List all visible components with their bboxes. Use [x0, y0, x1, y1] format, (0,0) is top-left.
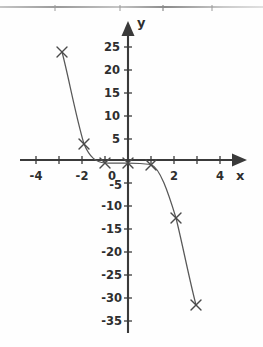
data-point-marker — [191, 300, 201, 310]
y-tick-label: -35 — [101, 314, 122, 328]
y-tick-label: -15 — [101, 222, 122, 236]
y-axis-arrow — [122, 21, 135, 36]
x-axis-label: x — [236, 168, 245, 183]
y-tick-label: 5 — [112, 132, 120, 146]
y-tick-label: 25 — [104, 40, 120, 54]
y-axis — [122, 21, 135, 333]
graph-figure: y x 0 -4 -2 2 4 25 20 15 10 5 -5 -10 -15… — [0, 0, 263, 347]
y-tick-label: -20 — [101, 245, 122, 259]
x-tick-label: 4 — [216, 169, 224, 183]
y-tick-label: -10 — [101, 199, 122, 213]
y-tick-label: 20 — [104, 63, 120, 77]
y-tick-label: 10 — [104, 109, 120, 123]
y-tick-label: -25 — [101, 268, 122, 282]
x-tick-label: 2 — [170, 169, 178, 183]
x-tick-label: -2 — [76, 169, 89, 183]
data-point-marker — [79, 139, 89, 149]
coordinate-plot: y x 0 -4 -2 2 4 25 20 15 10 5 -5 -10 -15… — [0, 0, 263, 347]
x-axis-arrow — [232, 154, 247, 167]
data-point-marker — [57, 47, 67, 57]
data-point-marker — [171, 213, 181, 223]
x-axis — [20, 154, 247, 167]
y-tick-label: -30 — [101, 291, 122, 305]
y-tick-label: -5 — [109, 178, 122, 192]
y-axis-label: y — [137, 15, 146, 30]
x-tick-label: -4 — [30, 169, 43, 183]
y-tick-label: 15 — [104, 86, 120, 100]
scan-edge-ticks — [0, 2, 263, 12]
